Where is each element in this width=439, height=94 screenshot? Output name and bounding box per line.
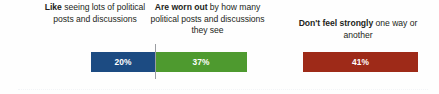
bar-value-no-feeling: 41% <box>352 57 369 67</box>
bar-segment-like: 20% <box>91 52 155 72</box>
bar-label-like-rest: seeing lots of political posts and discu… <box>53 2 145 24</box>
bar-label-no-feeling-lead: Don't feel strongly <box>299 18 374 28</box>
segment-divider-line <box>155 44 156 79</box>
bar-segment-no-feeling: 41% <box>303 52 418 72</box>
bottom-divider-rule <box>18 89 428 91</box>
bar-label-worn-out-lead: Are worn out <box>155 2 208 12</box>
bar-value-worn-out: 37% <box>193 57 210 67</box>
bar-segment-worn-out: 37% <box>155 52 247 72</box>
bar-value-like: 20% <box>115 57 132 67</box>
bar-label-like-lead: Like <box>45 2 62 12</box>
bar-label-worn-out: Are worn out by how many political posts… <box>145 2 270 37</box>
bar-label-like: Like seeing lots of political posts and … <box>41 2 149 25</box>
stacked-bar: 20% 37% <box>91 52 247 72</box>
bar-label-no-feeling: Don't feel strongly one way or another <box>293 18 423 41</box>
infographic-chart: Like seeing lots of political posts and … <box>0 0 439 94</box>
